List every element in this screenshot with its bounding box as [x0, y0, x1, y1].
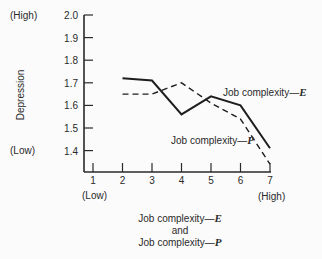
y-tick-label: 1.4	[64, 146, 78, 157]
y-low-label: (Low)	[10, 145, 35, 156]
line-chart: 1.41.51.61.71.81.92.0 1234567 (High) (Lo…	[0, 0, 322, 259]
x-tick-label: 5	[208, 175, 214, 186]
x-ticks: 1234567	[90, 163, 273, 186]
x-tick-label: 4	[179, 175, 185, 186]
y-tick-label: 1.8	[64, 55, 78, 66]
x-tick-label: 2	[120, 175, 126, 186]
x-tick-label: 7	[267, 175, 273, 186]
x-high-label: (High)	[258, 191, 285, 202]
x-tick-label: 3	[149, 175, 155, 186]
y-tick-label: 1.6	[64, 100, 78, 111]
x-tick-label: 1	[90, 175, 96, 186]
x-tick-label: 6	[238, 175, 244, 186]
series-label-p: Job complexity—P	[171, 134, 254, 146]
y-high-label: (High)	[10, 10, 37, 21]
x-axis-title: Job complexity—E and Job complexity—P	[138, 212, 221, 248]
y-tick-label: 2.0	[64, 10, 78, 21]
x-low-label: (Low)	[82, 190, 107, 201]
svg-text:and: and	[172, 225, 189, 236]
y-axis-title: Depression	[15, 70, 26, 121]
y-tick-label: 1.5	[64, 123, 78, 134]
y-tick-label: 1.9	[64, 33, 78, 44]
svg-text:Job complexity—E: Job complexity—E	[138, 212, 221, 224]
y-tick-label: 1.7	[64, 78, 78, 89]
series-label-e: Job complexity—E	[223, 86, 306, 98]
y-ticks: 1.41.51.61.71.81.92.0	[64, 10, 93, 157]
svg-text:Job complexity—P: Job complexity—P	[139, 236, 222, 248]
